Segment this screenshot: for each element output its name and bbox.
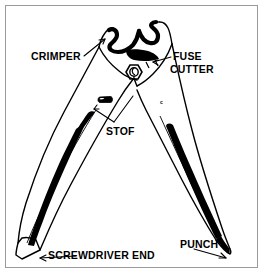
jaw-right-outer-contour [160,22,172,44]
label-stof: STOF [106,126,135,137]
label-cutter: CUTTER [170,64,214,75]
stof-leader-line [114,96,133,122]
crimper-leader-line [84,39,105,56]
right-handle-inner-edge [137,90,216,240]
pivot-hex-nut [126,65,142,79]
fuse-cutter-leader-arrow [153,60,158,65]
left-handle-outer-edge [18,47,99,243]
jaw-detail-group [109,22,160,68]
pivot-nut-group [126,65,142,79]
label-crimper: CRIMPER [31,51,81,62]
label-fuse: FUSE [173,51,202,62]
pivot-nut-slot [132,68,135,75]
crimping-tool-illustration [0,0,265,277]
label-punch: PUNCH [180,239,218,250]
stof-leader-arrow [94,105,99,109]
left-handle-inner-edge [40,78,134,250]
crimper-jaw-profile [109,29,139,52]
stof-leader-branch [94,109,114,122]
label-mark-c: c [160,100,163,105]
jaw-mouth-wedge [126,49,159,61]
label-screwdriver-end: SCREWDRIVER END [48,250,155,261]
diagram-page: CRIMPER FUSE CUTTER STOF SCREWDRIVER END… [0,0,265,277]
fuse-cutter-jaw-profile [139,22,158,43]
right-handle-shadow [166,124,222,239]
stop-tab-shape [98,97,113,103]
stop-tab-group [98,97,113,103]
